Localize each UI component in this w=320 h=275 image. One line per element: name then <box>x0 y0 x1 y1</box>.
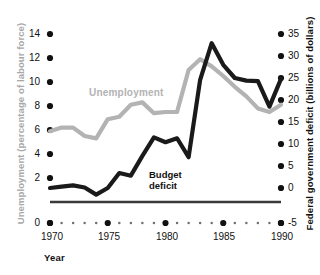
x-axis-dot-1977 <box>130 222 133 225</box>
x-axis-dot-1980 <box>162 220 168 226</box>
x-axis-dot-1988 <box>257 222 260 225</box>
chart-figure: Unemployment (percentage of labour force… <box>0 0 320 275</box>
x-axis-dot-1990 <box>278 220 284 226</box>
x-axis-dot-1979 <box>153 222 156 225</box>
x-axis-dot-1983 <box>199 222 202 225</box>
x-axis-dot-1971 <box>60 222 63 225</box>
x-axis-dot-1989 <box>268 222 271 225</box>
plot-area <box>0 0 320 275</box>
x-axis-dot-1986 <box>234 222 237 225</box>
series-line-budget-deficit <box>50 43 281 194</box>
x-axis-dot-1970 <box>47 220 53 226</box>
x-axis-dot-1972 <box>72 222 75 225</box>
x-axis-dot-1984 <box>210 222 213 225</box>
x-axis-dot-1973 <box>83 222 86 225</box>
x-axis-dot-1987 <box>245 222 248 225</box>
x-axis-dot-1976 <box>118 222 121 225</box>
x-axis-dot-1981 <box>176 222 179 225</box>
x-axis-dot-1975 <box>105 220 111 226</box>
x-axis-dot-1985 <box>220 220 226 226</box>
x-axis-dot-1974 <box>95 222 98 225</box>
x-axis-dot-1978 <box>141 222 144 225</box>
x-axis-dot-1982 <box>187 222 190 225</box>
x-axis-marker-dots <box>47 220 284 226</box>
tick-marker-dots-right <box>278 31 284 226</box>
series-line-unemployment <box>50 59 281 138</box>
